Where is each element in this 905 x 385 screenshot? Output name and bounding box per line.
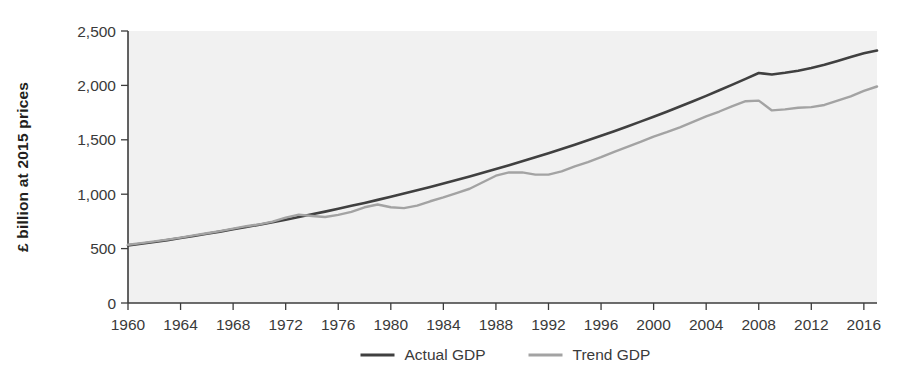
x-tick-label: 1996 (584, 316, 618, 333)
x-tick-label: 2012 (794, 316, 828, 333)
x-tick-label: 1976 (321, 316, 355, 333)
y-axis-title: £ billion at 2015 prices (14, 82, 31, 252)
x-axis-tick-labels: 1960196419681972197619801984198819921996… (111, 316, 881, 333)
x-tick-label: 2004 (689, 316, 724, 333)
legend-label: Trend GDP (573, 346, 651, 363)
y-tick-label: 2,000 (77, 77, 116, 94)
x-tick-label: 2000 (636, 316, 671, 333)
y-tick-label: 0 (107, 295, 116, 312)
y-tick-label: 500 (90, 240, 116, 257)
y-tick-label: 1,000 (77, 186, 116, 203)
gdp-line-chart: 05001,0001,5002,0002,500 196019641968197… (0, 0, 905, 385)
x-tick-label: 1988 (479, 316, 513, 333)
y-tick-label: 2,500 (77, 23, 116, 40)
x-tick-label: 2008 (741, 316, 775, 333)
x-tick-label: 1980 (374, 316, 409, 333)
x-tick-label: 1972 (268, 316, 302, 333)
x-tick-label: 2016 (847, 316, 881, 333)
legend-label: Actual GDP (405, 346, 486, 363)
x-tick-label: 1968 (216, 316, 250, 333)
x-tick-label: 1964 (163, 316, 198, 333)
x-tick-label: 1984 (426, 316, 461, 333)
x-tick-label: 1992 (531, 316, 565, 333)
y-tick-label: 1,500 (77, 131, 116, 148)
x-tick-label: 1960 (111, 316, 146, 333)
